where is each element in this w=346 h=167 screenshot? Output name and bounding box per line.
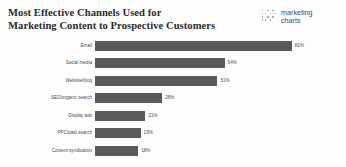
- bar: [95, 128, 141, 138]
- chart-row: Email82%: [0, 37, 346, 55]
- chart-row: SEO/organic search28%: [0, 90, 346, 108]
- logo-dot: [265, 13, 266, 14]
- category-label: Social media: [0, 60, 95, 66]
- title-line-2: Marketing Content to Prospective Custome…: [8, 20, 248, 33]
- logo-dot: [275, 13, 276, 14]
- marketing-charts-logo: marketing charts: [262, 9, 313, 24]
- category-label: Display ads: [0, 113, 95, 119]
- bar-track: 28%: [95, 90, 346, 108]
- category-label: Email: [0, 43, 95, 49]
- value-label: 28%: [165, 95, 174, 101]
- bar-track: 82%: [95, 37, 346, 55]
- value-label: 82%: [295, 43, 304, 49]
- category-label: SEO/organic search: [0, 95, 95, 101]
- value-label: 21%: [148, 113, 157, 119]
- chart-row: Content syndication18%: [0, 142, 346, 160]
- logo-dot: [272, 16, 273, 17]
- bar-track: 51%: [95, 72, 346, 90]
- bar: [95, 41, 292, 51]
- bar: [95, 146, 138, 156]
- logo-text: marketing charts: [281, 9, 313, 24]
- chart-header: Most Effective Channels Used for Marketi…: [0, 0, 346, 36]
- logo-dot: [267, 10, 268, 11]
- category-label: Website/blog: [0, 78, 95, 84]
- bar-track: 19%: [95, 125, 346, 143]
- bar-track: 18%: [95, 142, 346, 160]
- bar: [95, 93, 162, 103]
- chart-row: Website/blog51%: [0, 72, 346, 90]
- chart-page: Most Effective Channels Used for Marketi…: [0, 0, 346, 167]
- chart-row: Social media54%: [0, 55, 346, 73]
- logo-dot: [262, 10, 263, 11]
- logo-dot: [262, 13, 263, 14]
- category-label: Content syndication: [0, 148, 95, 154]
- value-label: 19%: [144, 130, 153, 136]
- bar-track: 21%: [95, 107, 346, 125]
- chart-row: Display ads21%: [0, 107, 346, 125]
- title-line-1: Most Effective Channels Used for: [8, 7, 248, 20]
- logo-dot: [265, 19, 266, 20]
- logo-dot: [270, 19, 271, 20]
- value-label: 54%: [228, 60, 237, 66]
- bar-chart: Email82%Social media54%Website/blog51%SE…: [0, 36, 346, 167]
- bar: [95, 76, 217, 86]
- category-label: PPC/paid search: [0, 130, 95, 136]
- bar-track: 54%: [95, 55, 346, 73]
- bar: [95, 58, 225, 68]
- page-title: Most Effective Channels Used for Marketi…: [8, 7, 248, 32]
- bar: [95, 111, 145, 121]
- logo-dot: [267, 16, 268, 17]
- value-label: 51%: [220, 78, 229, 84]
- chart-row: PPC/paid search19%: [0, 125, 346, 143]
- value-label: 18%: [141, 148, 150, 154]
- logo-dot: [272, 10, 273, 11]
- logo-dot: [262, 16, 263, 17]
- logo-line-2: charts: [281, 17, 313, 25]
- logo-dot: [270, 13, 271, 14]
- dot-grid-icon: [262, 10, 278, 23]
- logo-dot: [262, 19, 263, 20]
